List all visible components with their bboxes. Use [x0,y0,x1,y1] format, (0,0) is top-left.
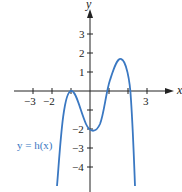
x-tick-label: 3 [143,95,149,107]
y-tick-label: 3 [79,28,85,40]
x-tick-label: −2 [43,95,55,107]
y-tick-label: 2 [79,47,85,59]
x-axis-arrow-icon [165,88,174,94]
y-tick-label: −3 [72,142,84,154]
chart: x y −3 −2 3 3 2 1 −2 −3 −4 y = h(x) [0,0,182,192]
curve-h [57,59,135,186]
curve-label: y = h(x) [17,139,53,152]
y-tick-label: −4 [72,161,84,173]
x-tick-label: −3 [24,95,36,107]
y-tick-label: 1 [79,66,85,78]
x-axis-label: x [176,83,182,97]
y-tick-label: −2 [72,123,84,135]
y-axis-label: y [85,0,92,11]
